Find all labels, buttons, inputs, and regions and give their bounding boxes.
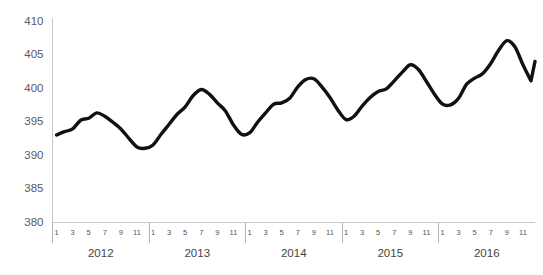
x-tick-label: 9 — [408, 228, 412, 237]
x-tick-label: 9 — [312, 228, 316, 237]
chart-canvas: 380385390395400405410 135791113579111357… — [0, 0, 543, 275]
x-tick-label: 5 — [280, 228, 284, 237]
y-tick-label: 405 — [24, 48, 43, 60]
data-series — [57, 41, 535, 149]
x-tick-label: 5 — [87, 228, 91, 237]
x-tick-label: 3 — [167, 228, 171, 237]
x-tick-label: 9 — [215, 228, 219, 237]
y-tick-label: 385 — [24, 182, 43, 194]
x-tick-label: 7 — [296, 228, 300, 237]
x-tick-label: 7 — [392, 228, 396, 237]
y-tick-label: 380 — [24, 216, 43, 228]
y-tick-label: 390 — [24, 149, 43, 161]
x-tick-label: 7 — [489, 228, 493, 237]
year-label: 2014 — [281, 247, 307, 259]
y-axis: 380385390395400405410 — [24, 15, 52, 228]
x-tick-label: 7 — [103, 228, 107, 237]
x-tick-label: 1 — [440, 228, 444, 237]
x-tick-label: 3 — [360, 228, 364, 237]
x-tick-label: 1 — [247, 228, 251, 237]
y-tick-label: 410 — [24, 15, 43, 27]
x-tick-labels: 13579111357911135791113579111357911 — [54, 228, 526, 237]
year-label: 2012 — [88, 247, 114, 259]
x-tick-label: 11 — [230, 228, 238, 237]
year-label: 2015 — [377, 247, 403, 259]
x-tick-label: 1 — [344, 228, 348, 237]
x-tick-label: 3 — [71, 228, 75, 237]
x-tick-label: 11 — [423, 228, 431, 237]
x-tick-label: 5 — [183, 228, 187, 237]
x-tick-label: 11 — [519, 228, 527, 237]
x-tick-label: 9 — [505, 228, 509, 237]
series-line-index — [57, 41, 535, 149]
x-tick-label: 3 — [457, 228, 461, 237]
x-tick-label: 11 — [133, 228, 141, 237]
line-chart: 380385390395400405410 135791113579111357… — [0, 0, 543, 275]
year-labels: 20122013201420152016 — [88, 247, 500, 259]
x-tick-label: 3 — [264, 228, 268, 237]
x-tick-label: 1 — [54, 228, 58, 237]
x-tick-label: 5 — [473, 228, 477, 237]
y-tick-label: 395 — [24, 115, 43, 127]
x-tick-label: 7 — [199, 228, 203, 237]
x-tick-label: 9 — [119, 228, 123, 237]
y-tick-label: 400 — [24, 82, 43, 94]
year-separators — [53, 223, 439, 244]
x-tick-label: 5 — [376, 228, 380, 237]
x-tick-label: 11 — [326, 228, 334, 237]
year-label: 2016 — [474, 247, 500, 259]
year-label: 2013 — [184, 247, 210, 259]
x-tick-label: 1 — [151, 228, 155, 237]
